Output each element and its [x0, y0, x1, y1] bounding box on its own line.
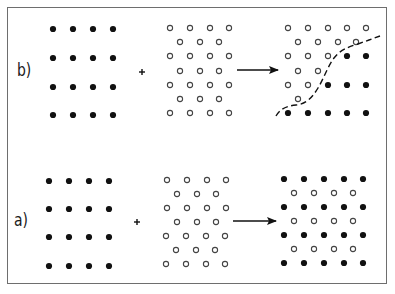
open-atom — [204, 205, 209, 210]
phase-boundary-curve — [276, 36, 380, 116]
open-atom — [187, 53, 192, 58]
filled-atom — [281, 260, 287, 266]
open-atom — [203, 261, 208, 266]
filled-atom — [46, 178, 52, 184]
filled-atom — [341, 232, 347, 238]
open-atom — [295, 39, 300, 44]
open-atom — [207, 25, 212, 30]
filled-atom — [344, 53, 350, 59]
open-atom — [295, 68, 300, 73]
open-atom — [325, 53, 330, 58]
open-atom — [305, 25, 310, 30]
open-atom — [331, 246, 336, 251]
filled-atom — [341, 204, 347, 210]
filled-atom — [50, 55, 56, 61]
filled-atom — [86, 178, 92, 184]
filled-atom — [341, 260, 347, 266]
open-atom — [285, 53, 290, 58]
filled-atom — [86, 206, 92, 212]
plus-sign — [139, 69, 145, 75]
open-atom — [291, 218, 296, 223]
reactant-open-lattice — [167, 25, 231, 115]
filled-atom — [363, 82, 369, 88]
open-atom — [226, 82, 231, 87]
plus-sign — [134, 219, 140, 225]
filled-atom — [341, 176, 347, 182]
filled-atom — [70, 112, 76, 118]
open-atom — [305, 82, 310, 87]
filled-atom — [86, 263, 92, 269]
filled-atom — [301, 260, 307, 266]
filled-atom — [46, 234, 52, 240]
filled-atom — [70, 55, 76, 61]
filled-atom — [110, 55, 116, 61]
open-atom — [331, 218, 336, 223]
open-atom — [194, 219, 199, 224]
filled-atom — [301, 232, 307, 238]
open-atom — [207, 82, 212, 87]
filled-atom — [106, 206, 112, 212]
open-atom — [363, 25, 368, 30]
filled-atom — [66, 234, 72, 240]
open-atom — [335, 39, 340, 44]
filled-atom — [50, 26, 56, 32]
open-atom — [187, 110, 192, 115]
reactant-open-lattice — [163, 177, 228, 266]
open-atom — [226, 25, 231, 30]
open-atom — [164, 205, 169, 210]
filled-atom — [281, 204, 287, 210]
open-atom — [167, 110, 172, 115]
filled-atom — [363, 110, 369, 116]
filled-atom — [344, 82, 350, 88]
filled-atom — [344, 110, 350, 116]
open-atom — [216, 96, 221, 101]
open-atom — [184, 205, 189, 210]
open-atom — [167, 25, 172, 30]
open-atom — [331, 190, 336, 195]
filled-atom — [321, 260, 327, 266]
reactant-filled-lattice — [46, 178, 112, 269]
open-atom — [311, 218, 316, 223]
open-atom — [197, 96, 202, 101]
open-atom — [350, 190, 355, 195]
open-atom — [177, 96, 182, 101]
open-atom — [184, 177, 189, 182]
open-atom — [350, 218, 355, 223]
filled-atom — [90, 112, 96, 118]
filled-atom — [90, 26, 96, 32]
filled-atom — [90, 84, 96, 90]
open-atom — [285, 25, 290, 30]
open-atom — [177, 39, 182, 44]
product-lattice — [281, 176, 366, 266]
filled-atom — [110, 112, 116, 118]
open-atom — [216, 39, 221, 44]
filled-atom — [70, 84, 76, 90]
filled-atom — [106, 234, 112, 240]
filled-atom — [285, 110, 291, 116]
open-atom — [311, 190, 316, 195]
open-atom — [173, 247, 178, 252]
open-atom — [223, 205, 228, 210]
open-atom — [197, 39, 202, 44]
filled-atom — [90, 55, 96, 61]
panel-b — [50, 25, 380, 118]
filled-atom — [50, 112, 56, 118]
open-atom — [315, 68, 320, 73]
open-atom — [350, 246, 355, 251]
filled-atom — [66, 263, 72, 269]
filled-atom — [50, 84, 56, 90]
filled-atom — [321, 176, 327, 182]
filled-atom — [301, 204, 307, 210]
filled-atom — [110, 26, 116, 32]
open-atom — [207, 53, 212, 58]
open-atom — [197, 68, 202, 73]
open-atom — [163, 261, 168, 266]
filled-atom — [305, 110, 311, 116]
filled-atom — [321, 232, 327, 238]
open-atom — [305, 53, 310, 58]
panel-a — [46, 176, 366, 269]
filled-atom — [360, 260, 366, 266]
open-atom — [285, 82, 290, 87]
filled-atom — [325, 110, 331, 116]
open-atom — [223, 177, 228, 182]
